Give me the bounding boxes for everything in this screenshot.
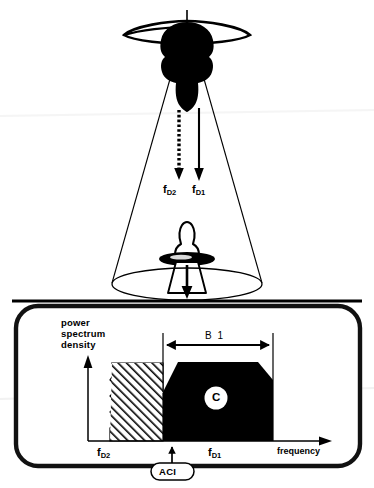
figure-canvas: fD2 fD1 power spectrum density B 1 C fD2…	[0, 0, 374, 488]
diagram-svg	[0, 0, 374, 488]
aci-label: ACI	[159, 466, 176, 477]
doppler-arrow-fd2	[174, 110, 184, 180]
helicopter-silhouette-icon	[160, 22, 213, 112]
doppler-arrow-fd1	[194, 108, 204, 181]
y-axis-title-line1: power	[61, 317, 105, 328]
c-label: C	[212, 391, 220, 405]
x-tick-label-fd2: fD2	[97, 446, 110, 459]
beam-label-fd2: fD2	[163, 183, 176, 196]
scene-upper	[12, 10, 362, 301]
y-axis-title: power spectrum density	[61, 317, 105, 351]
beam-edge-right	[202, 72, 262, 283]
beam-label-fd1: fD1	[192, 183, 205, 196]
y-axis-title-line2: spectrum	[61, 328, 105, 339]
x-tick-label-fd1: fD1	[208, 446, 221, 459]
y-axis-title-line3: density	[61, 339, 105, 350]
beam-edge-left	[112, 72, 172, 283]
x-axis-title: frequency	[277, 446, 320, 457]
b1-label: B 1	[205, 330, 225, 342]
